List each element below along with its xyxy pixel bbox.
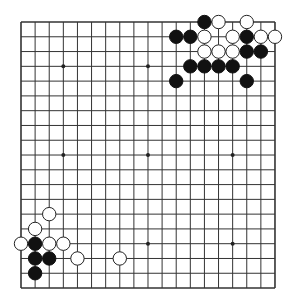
white-stone[interactable] (198, 30, 211, 43)
white-stone[interactable] (212, 45, 225, 58)
black-stone[interactable] (240, 45, 253, 58)
black-stone[interactable] (170, 74, 183, 87)
star-point-icon (146, 242, 150, 246)
black-stone[interactable] (28, 267, 41, 280)
black-stone[interactable] (226, 60, 239, 73)
black-stone[interactable] (240, 30, 253, 43)
star-point-icon (146, 64, 150, 68)
black-stone[interactable] (198, 60, 211, 73)
white-stone[interactable] (226, 30, 239, 43)
white-stone[interactable] (14, 237, 27, 250)
black-stone[interactable] (240, 74, 253, 87)
go-board[interactable] (0, 0, 299, 308)
black-stone[interactable] (212, 60, 225, 73)
star-point-icon (231, 242, 235, 246)
star-point-icon (231, 153, 235, 157)
white-stone[interactable] (212, 15, 225, 28)
black-stone[interactable] (184, 30, 197, 43)
black-stone[interactable] (198, 15, 211, 28)
white-stone[interactable] (43, 207, 56, 220)
star-point-icon (61, 153, 65, 157)
star-point-icon (61, 64, 65, 68)
black-stone[interactable] (43, 252, 56, 265)
white-stone[interactable] (71, 252, 84, 265)
star-point-icon (146, 153, 150, 157)
white-stone[interactable] (226, 45, 239, 58)
white-stone[interactable] (43, 237, 56, 250)
white-stone[interactable] (198, 45, 211, 58)
black-stone[interactable] (254, 45, 267, 58)
white-stone[interactable] (268, 30, 281, 43)
black-stone[interactable] (28, 252, 41, 265)
black-stone[interactable] (184, 60, 197, 73)
black-stone[interactable] (28, 237, 41, 250)
white-stone[interactable] (254, 30, 267, 43)
white-stone[interactable] (113, 252, 126, 265)
black-stone[interactable] (170, 30, 183, 43)
white-stone[interactable] (240, 15, 253, 28)
white-stone[interactable] (57, 237, 70, 250)
white-stone[interactable] (28, 222, 41, 235)
